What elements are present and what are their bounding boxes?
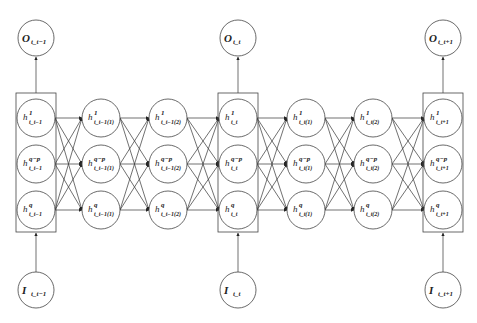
hidden-node: h1t_t(2) bbox=[354, 99, 392, 137]
output-node-o_curr: Ot_t bbox=[220, 20, 256, 56]
hidden-node: hqt_t−1(1) bbox=[82, 191, 120, 229]
node-subscript: t_t+1 bbox=[436, 211, 449, 217]
hidden-node: hqt_t(2) bbox=[354, 191, 392, 229]
input-node-i_curr: It_t bbox=[220, 272, 256, 308]
hidden-node: hqt_t+1 bbox=[424, 191, 462, 229]
node-superscript: q bbox=[94, 201, 98, 209]
node-label: h bbox=[225, 158, 230, 168]
node-subscript: t_t(1) bbox=[299, 119, 312, 126]
input-node-i_prev: It_t−1 bbox=[18, 272, 54, 308]
node-label: h bbox=[155, 204, 160, 214]
node-superscript: 1 bbox=[29, 109, 33, 117]
input-label: I bbox=[21, 284, 27, 296]
node-superscript: q bbox=[436, 201, 440, 209]
node-superscript: q bbox=[299, 201, 303, 209]
input-label: I bbox=[428, 284, 434, 296]
output-subscript: t_t−1 bbox=[31, 38, 46, 46]
node-label: h bbox=[360, 204, 365, 214]
node-superscript: 1 bbox=[299, 109, 303, 117]
rnn-diagram: h1t_t−1hq−pt_t−1hqt_t−1h1t_t−1(1)hq−pt_t… bbox=[0, 0, 477, 323]
node-label: h bbox=[155, 158, 160, 168]
node-label: h bbox=[225, 204, 230, 214]
node-superscript: 1 bbox=[231, 109, 235, 117]
node-subscript: t_t−1(1) bbox=[94, 211, 114, 218]
output-node-o_next: Ot_t+1 bbox=[425, 20, 461, 56]
node-superscript: q−p bbox=[366, 155, 378, 163]
node-subscript: t_t+1 bbox=[436, 165, 449, 171]
node-label: h bbox=[225, 112, 230, 122]
node-superscript: 1 bbox=[94, 109, 98, 117]
node-label: h bbox=[293, 158, 298, 168]
hidden-node: hq−pt_t−1(2) bbox=[149, 145, 187, 183]
node-superscript: q bbox=[231, 201, 235, 209]
node-subscript: t_t bbox=[231, 119, 238, 125]
hidden-node: h1t_t+1 bbox=[424, 99, 462, 137]
node-subscript: t_t−1(1) bbox=[94, 165, 114, 172]
node-label: h bbox=[23, 204, 28, 214]
node-label: h bbox=[23, 158, 28, 168]
node-subscript: t_t−1(2) bbox=[161, 165, 181, 172]
node-subscript: t_t−1(2) bbox=[161, 211, 181, 218]
node-label: h bbox=[430, 158, 435, 168]
hidden-node: hqt_t(1) bbox=[287, 191, 325, 229]
node-superscript: q−p bbox=[94, 155, 106, 163]
node-label: h bbox=[293, 204, 298, 214]
hidden-node: h1t_t−1(2) bbox=[149, 99, 187, 137]
diagram-canvas: h1t_t−1hq−pt_t−1hqt_t−1h1t_t−1(1)hq−pt_t… bbox=[0, 0, 477, 323]
hidden-node: h1t_t(1) bbox=[287, 99, 325, 137]
node-subscript: t_t+1 bbox=[436, 119, 449, 125]
input-label: I bbox=[223, 284, 229, 296]
output-subscript: t_t+1 bbox=[438, 38, 453, 46]
node-subscript: t_t−1 bbox=[29, 119, 42, 125]
hidden-node: hq−pt_t+1 bbox=[424, 145, 462, 183]
node-label: h bbox=[155, 112, 160, 122]
node-superscript: q bbox=[366, 201, 370, 209]
hidden-node: h1t_t−1 bbox=[17, 99, 55, 137]
hidden-node: hq−pt_t−1(1) bbox=[82, 145, 120, 183]
node-subscript: t_t−1 bbox=[29, 165, 42, 171]
node-superscript: q−p bbox=[161, 155, 173, 163]
input-node-i_next: It_t+1 bbox=[425, 272, 461, 308]
node-superscript: 1 bbox=[366, 109, 370, 117]
node-label: h bbox=[360, 112, 365, 122]
node-subscript: t_t(2) bbox=[366, 165, 379, 172]
hidden-node: hq−pt_t(2) bbox=[354, 145, 392, 183]
node-superscript: q bbox=[161, 201, 165, 209]
input-subscript: t_t+1 bbox=[438, 290, 453, 298]
input-subscript: t_t−1 bbox=[31, 290, 46, 298]
node-label: h bbox=[88, 158, 93, 168]
node-superscript: q−p bbox=[231, 155, 243, 163]
node-subscript: t_t(2) bbox=[366, 119, 379, 126]
output-node-o_prev: Ot_t−1 bbox=[18, 20, 54, 56]
node-superscript: q−p bbox=[436, 155, 448, 163]
output-label: O bbox=[429, 32, 437, 44]
node-label: h bbox=[88, 112, 93, 122]
node-superscript: q bbox=[29, 201, 33, 209]
node-subscript: t_t−1(2) bbox=[161, 119, 181, 126]
node-label: h bbox=[430, 112, 435, 122]
node-subscript: t_t(2) bbox=[366, 211, 379, 218]
node-subscript: t_t(1) bbox=[299, 165, 312, 172]
node-subscript: t_t bbox=[231, 211, 238, 217]
node-subscript: t_t−1(1) bbox=[94, 119, 114, 126]
hidden-node: hqt_t−1 bbox=[17, 191, 55, 229]
output-subscript: t_t bbox=[233, 38, 241, 46]
output-label: O bbox=[22, 32, 30, 44]
input-subscript: t_t bbox=[233, 290, 241, 298]
node-subscript: t_t(1) bbox=[299, 211, 312, 218]
hidden-node: hq−pt_t−1 bbox=[17, 145, 55, 183]
output-label: O bbox=[224, 32, 232, 44]
hidden-node: h1t_t−1(1) bbox=[82, 99, 120, 137]
node-label: h bbox=[360, 158, 365, 168]
hidden-node: h1t_t bbox=[219, 99, 257, 137]
node-superscript: 1 bbox=[436, 109, 440, 117]
hidden-node: hq−pt_t bbox=[219, 145, 257, 183]
node-label: h bbox=[430, 204, 435, 214]
node-superscript: q−p bbox=[29, 155, 41, 163]
node-subscript: t_t−1 bbox=[29, 211, 42, 217]
hidden-node: hqt_t−1(2) bbox=[149, 191, 187, 229]
node-label: h bbox=[23, 112, 28, 122]
node-label: h bbox=[88, 204, 93, 214]
node-label: h bbox=[293, 112, 298, 122]
hidden-node: hqt_t bbox=[219, 191, 257, 229]
